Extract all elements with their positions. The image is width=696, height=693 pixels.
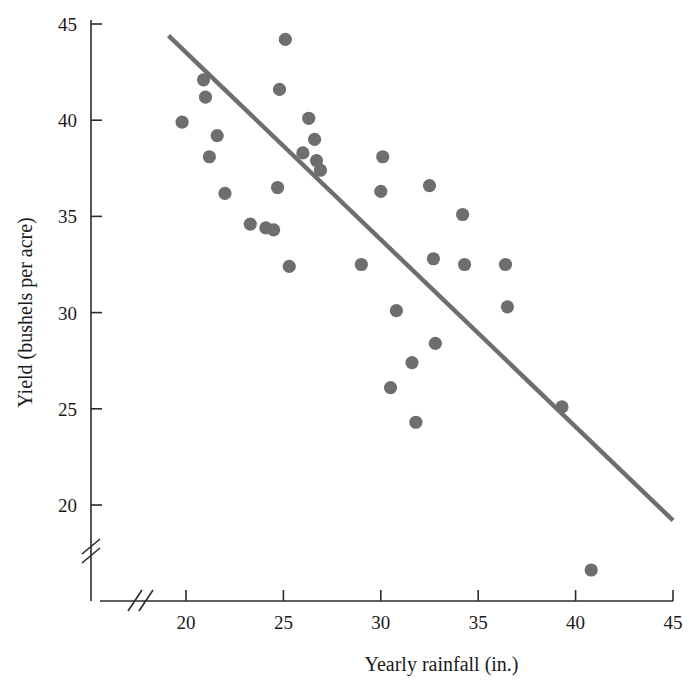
data-point xyxy=(499,258,512,271)
x-tick-label-40: 40 xyxy=(566,612,585,633)
data-point xyxy=(585,563,598,576)
y-tick-label-35: 35 xyxy=(58,206,77,227)
data-point xyxy=(302,112,315,125)
x-tick-label-20: 20 xyxy=(177,612,196,633)
x-tick-label-35: 35 xyxy=(469,612,488,633)
scatter-plot-figure: 202530354045202530354045Yearly rainfall … xyxy=(0,0,696,693)
data-point xyxy=(429,337,442,350)
y-tick-label-40: 40 xyxy=(58,110,77,131)
plot-canvas: 202530354045202530354045Yearly rainfall … xyxy=(0,0,696,693)
data-point xyxy=(176,116,189,129)
data-point xyxy=(279,33,292,46)
data-point xyxy=(203,150,216,163)
y-tick-label-20: 20 xyxy=(58,495,77,516)
data-point xyxy=(555,400,568,413)
y-axis-title: Yield (bushels per acre) xyxy=(14,217,37,407)
data-point xyxy=(456,208,469,221)
data-point xyxy=(405,356,418,369)
data-point xyxy=(273,83,286,96)
data-point xyxy=(355,258,368,271)
data-point xyxy=(423,179,436,192)
y-tick-label-25: 25 xyxy=(58,399,77,420)
data-point xyxy=(427,252,440,265)
data-point xyxy=(283,260,296,273)
data-point xyxy=(211,129,224,142)
regression-line xyxy=(168,36,673,521)
data-point xyxy=(296,146,309,159)
data-point xyxy=(409,416,422,429)
data-point xyxy=(384,381,397,394)
data-point xyxy=(308,133,321,146)
x-tick-label-25: 25 xyxy=(274,612,293,633)
data-point xyxy=(374,185,387,198)
data-point xyxy=(501,300,514,313)
y-tick-label-45: 45 xyxy=(58,14,77,35)
data-point xyxy=(199,91,212,104)
data-point xyxy=(458,258,471,271)
y-tick-label-30: 30 xyxy=(58,303,77,324)
x-axis-title: Yearly rainfall (in.) xyxy=(364,653,518,676)
data-point xyxy=(376,150,389,163)
x-tick-label-45: 45 xyxy=(664,612,683,633)
data-point xyxy=(314,164,327,177)
data-point xyxy=(218,187,231,200)
data-point xyxy=(390,304,403,317)
data-point xyxy=(244,217,257,230)
data-point xyxy=(267,223,280,236)
x-tick-label-30: 30 xyxy=(371,612,390,633)
data-point xyxy=(271,181,284,194)
data-point xyxy=(197,73,210,86)
